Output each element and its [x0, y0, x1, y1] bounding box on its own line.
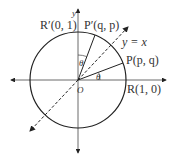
line-y-equals-x: [78, 27, 128, 80]
unit-circle-diagram: y y = x R′(0, 1) P′(q, p) P(p, q) R(1, 0…: [0, 0, 173, 160]
point-R-label: R(1, 0): [127, 82, 161, 96]
angle-theta-label-y: θ: [79, 58, 84, 68]
angle-theta-label-x: θ: [96, 72, 101, 82]
origin-label: O: [77, 85, 84, 95]
y-axis-label: y: [71, 8, 76, 18]
angle-arc-theta-y: [78, 55, 87, 57]
point-P-label: P(p, q): [126, 53, 159, 67]
point-R-prime-label: R′(0, 1): [40, 18, 77, 32]
segment-OP: [78, 63, 123, 80]
line-label: y = x: [121, 35, 147, 49]
point-P-prime-label: P′(q, p): [84, 18, 119, 32]
